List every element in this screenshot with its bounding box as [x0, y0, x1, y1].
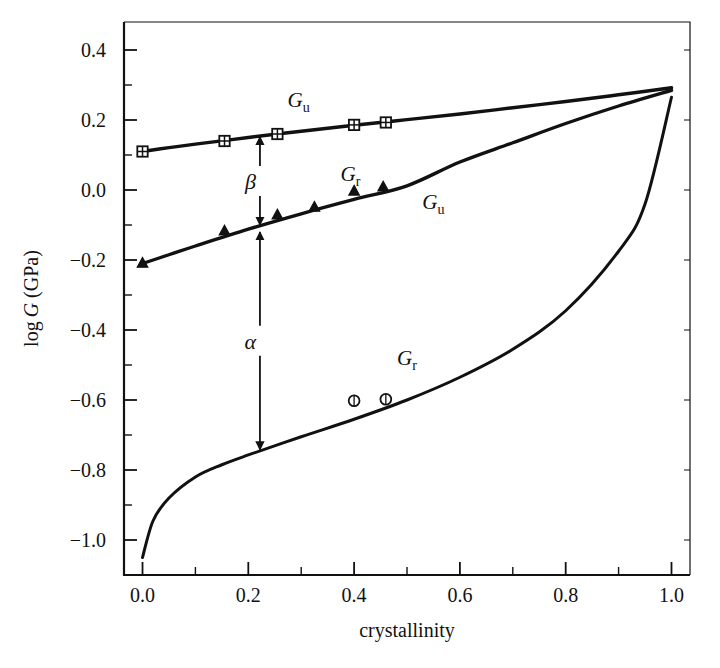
- x-tick-label-1: 0.2: [236, 584, 261, 606]
- curve-label-subscript: u: [303, 100, 310, 115]
- curve-label-subscript: r: [412, 358, 417, 373]
- chart-svg: 0.40.20.0−0.2−0.4−0.6−0.8−1.0 0.00.20.40…: [0, 0, 720, 668]
- curve-label-base: G: [287, 88, 302, 112]
- curve-label-subscript: r: [356, 174, 361, 189]
- x-axis-title: crystallinity: [359, 619, 455, 642]
- figure-container: 0.40.20.0−0.2−0.4−0.6−0.8−1.0 0.00.20.40…: [0, 0, 720, 668]
- x-tick-label-4: 0.8: [553, 584, 578, 606]
- y-tick-label-3: −0.2: [70, 249, 106, 271]
- y-tick-label-2: 0.0: [81, 179, 106, 201]
- y-title-log: log: [20, 317, 43, 347]
- curve-label-base: G: [397, 346, 412, 370]
- y-tick-label-4: −0.4: [70, 319, 106, 341]
- y-tick-label-1: 0.2: [81, 109, 106, 131]
- annotation-label-beta-gap: β: [244, 169, 256, 194]
- curve-label-base: G: [340, 162, 355, 186]
- y-tick-label-0: 0.4: [81, 39, 106, 61]
- x-tick-label-2: 0.4: [342, 584, 367, 606]
- chart-background: [0, 0, 720, 668]
- curve-label-base: G: [422, 190, 437, 214]
- curve-label-subscript: u: [438, 202, 445, 217]
- x-tick-label-3: 0.6: [447, 584, 472, 606]
- y-title-g: G: [20, 302, 42, 317]
- y-title-units: (GPa): [20, 250, 43, 303]
- x-tick-label-0: 0.0: [130, 584, 155, 606]
- x-tick-label-5: 1.0: [659, 584, 684, 606]
- y-tick-label-5: −0.6: [70, 389, 106, 411]
- y-tick-label-6: −0.8: [70, 459, 106, 481]
- annotation-label-alpha-gap: α: [244, 329, 256, 354]
- y-axis-title: log G (GPa): [20, 250, 43, 347]
- y-tick-label-7: −1.0: [70, 529, 106, 551]
